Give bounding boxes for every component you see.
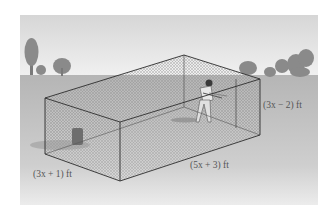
length-label: (5x + 3) ft [190,160,229,170]
height-label: (3x − 2) ft [263,100,302,110]
width-label: (3x + 1) ft [33,169,72,179]
